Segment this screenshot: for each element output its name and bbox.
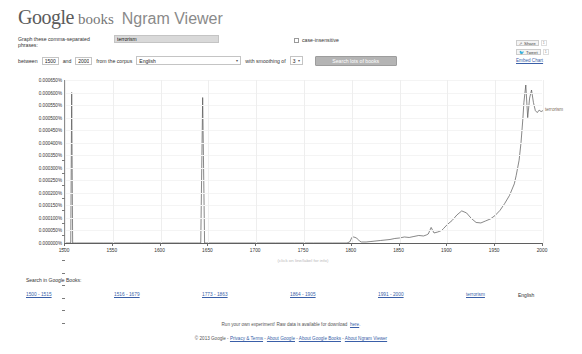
- x-axis-tick-label: 1950: [489, 248, 500, 253]
- x-axis-tick-label: 1750: [298, 248, 309, 253]
- y-axis-tick: [62, 173, 65, 174]
- experiment-end: .: [359, 322, 360, 327]
- y-axis-tick-label: 0.000500%: [39, 115, 62, 120]
- phrases-row: Graph these comma-separated phrases: cas…: [18, 36, 518, 50]
- footer-link[interactable]: About Google: [267, 336, 295, 341]
- y-axis-tick: [62, 210, 65, 211]
- ngram-viewer-page: Google books Ngram Viewer Graph these co…: [0, 0, 582, 354]
- twitter-bird-icon: 🐦: [519, 50, 524, 55]
- search-range-link[interactable]: 1500 - 1515: [26, 292, 52, 297]
- search-term-link[interactable]: terrorism: [466, 292, 485, 297]
- ngram-chart: 0.000650%0.000600%0.000550%0.000500%0.00…: [18, 80, 564, 260]
- share-row[interactable]: ⇗ Share 1: [516, 40, 572, 46]
- chevron-down-icon: ▾: [236, 58, 238, 63]
- x-axis-tick-label: 1800: [345, 248, 356, 253]
- y-axis-tick: [62, 185, 65, 186]
- y-axis-tick-label: 0.000300%: [39, 165, 62, 170]
- y-axis-tick-label: 0.000550%: [39, 103, 62, 108]
- smoothing-select[interactable]: 3 ▾: [290, 56, 303, 65]
- y-axis-tick: [62, 198, 65, 199]
- y-axis-tick-label: 0.000150%: [39, 203, 62, 208]
- share-label: Share: [524, 41, 536, 46]
- x-axis-tick-label: 1650: [202, 248, 213, 253]
- year-start-input[interactable]: [42, 57, 59, 65]
- case-insensitive-label: case-insensitive: [302, 37, 339, 43]
- search-range-link[interactable]: 1991 - 2000: [378, 292, 404, 297]
- app-header: Google books Ngram Viewer: [18, 6, 223, 28]
- corpus-select[interactable]: English ▾: [136, 56, 241, 65]
- share-button[interactable]: ⇗ Share: [516, 40, 539, 46]
- embed-chart-link[interactable]: Embed Chart: [516, 58, 572, 63]
- y-axis-tick-label: 0.000250%: [39, 178, 62, 183]
- phrases-label: Graph these comma-separated phrases:: [18, 36, 110, 48]
- search-in-books-links: 1500 - 15151516 - 16791773 - 18631864 - …: [26, 292, 446, 302]
- grid-line-vertical: [113, 80, 114, 243]
- series-label[interactable]: terrorism: [545, 107, 563, 112]
- corpus-selected-value: English: [139, 58, 155, 64]
- grid-line-vertical: [495, 80, 496, 243]
- year-end-input[interactable]: [75, 57, 92, 65]
- x-axis-tick: [303, 243, 304, 246]
- grid-line-vertical: [256, 80, 257, 243]
- phrases-input[interactable]: [114, 35, 219, 43]
- share-panel: ⇗ Share 1 🐦 Tweet 1 Embed Chart: [516, 40, 572, 63]
- grid-line-vertical: [352, 80, 353, 243]
- x-axis-tick: [255, 243, 256, 246]
- grid-line-vertical: [161, 80, 162, 243]
- tweet-row[interactable]: 🐦 Tweet 1: [516, 49, 572, 55]
- x-axis-tick: [207, 243, 208, 246]
- search-button[interactable]: Search lots of books: [315, 56, 397, 66]
- x-axis-tick-label: 1550: [106, 248, 117, 253]
- search-range-link[interactable]: 1516 - 1679: [114, 292, 140, 297]
- axis-note: (click on line/label for info): [64, 258, 542, 263]
- x-axis-tick-label: 1700: [250, 248, 261, 253]
- footer-experiment: Run your own experiment! Raw data is ava…: [0, 322, 582, 327]
- corpus-label: from the corpus: [96, 58, 132, 64]
- y-axis-tick-label: 0.000450%: [39, 128, 62, 133]
- y-axis-tick-label: 0.000350%: [39, 153, 62, 158]
- y-axis-tick-label: 0.000050%: [39, 228, 62, 233]
- x-axis-tick: [64, 243, 65, 246]
- raw-data-here-link[interactable]: here: [350, 322, 359, 327]
- y-axis-tick: [62, 285, 65, 286]
- y-axis-labels: 0.000650%0.000600%0.000550%0.000500%0.00…: [18, 80, 64, 243]
- search-range-link[interactable]: 1773 - 1863: [202, 292, 228, 297]
- query-form: Graph these comma-separated phrases: cas…: [18, 36, 518, 66]
- grid-line-vertical: [208, 80, 209, 243]
- y-axis-tick-label: 0.000100%: [39, 215, 62, 220]
- tweet-button[interactable]: 🐦 Tweet: [516, 49, 541, 55]
- smoothing-selected-value: 3: [293, 58, 296, 64]
- chevron-down-icon: ▾: [298, 58, 300, 63]
- page-title: Ngram Viewer: [122, 10, 223, 28]
- x-axis-tick: [542, 243, 543, 246]
- y-axis-tick-label: 0.000000%: [39, 241, 62, 246]
- grid-line-vertical: [65, 80, 66, 243]
- footer-link[interactable]: About Ngram Viewer: [345, 336, 387, 341]
- case-insensitive-checkbox[interactable]: [294, 38, 299, 43]
- search-language-label: English: [518, 292, 534, 298]
- and-label: and: [63, 58, 72, 64]
- experiment-text: Run your own experiment! Raw data is ava…: [222, 322, 348, 327]
- y-axis-tick: [62, 160, 65, 161]
- x-axis-tick-label: 1850: [393, 248, 404, 253]
- share-count: 1: [541, 40, 547, 46]
- y-axis-tick: [62, 310, 65, 311]
- y-axis-tick-label: 0.000400%: [39, 140, 62, 145]
- x-axis-tick: [160, 243, 161, 246]
- footer-link[interactable]: About Google Books: [299, 336, 341, 341]
- plot-area[interactable]: [64, 80, 542, 243]
- grid-line-vertical: [447, 80, 448, 243]
- search-range-link[interactable]: 1864 - 1905: [290, 292, 316, 297]
- footer-link[interactable]: Privacy & Terms: [230, 336, 263, 341]
- x-axis-tick: [494, 243, 495, 246]
- y-axis-tick-label: 0.000650%: [39, 78, 62, 83]
- x-axis-tick-label: 1600: [154, 248, 165, 253]
- search-in-books-heading: Search in Google Books:: [26, 277, 81, 283]
- tweet-count: 1: [543, 49, 549, 55]
- case-insensitive-control[interactable]: case-insensitive: [294, 37, 339, 43]
- y-axis-tick-label: 0.000600%: [39, 90, 62, 95]
- between-label: between: [18, 58, 38, 64]
- y-axis-tick-label: 0.000200%: [39, 190, 62, 195]
- grid-line-vertical: [304, 80, 305, 243]
- y-axis-tick: [62, 248, 65, 249]
